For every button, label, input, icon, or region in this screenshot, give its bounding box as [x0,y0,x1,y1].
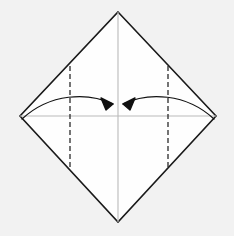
origami-diagram-figure [0,0,234,236]
origami-diagram-canvas [0,0,234,236]
